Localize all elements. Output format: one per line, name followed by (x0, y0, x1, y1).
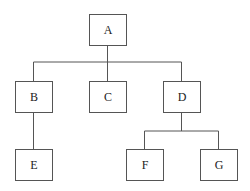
node-a-label: A (104, 23, 113, 37)
node-e-label: E (30, 158, 37, 172)
node-f-label: F (142, 158, 149, 172)
tree-diagram: A B C D E F G (0, 0, 250, 191)
node-d-label: D (178, 90, 187, 104)
node-b: B (16, 82, 53, 113)
node-c-label: C (104, 90, 112, 104)
node-d: D (164, 82, 201, 113)
node-a: A (90, 15, 127, 46)
node-c: C (90, 82, 127, 113)
edge-d-children (145, 112, 219, 149)
node-e: E (16, 150, 53, 181)
node-g: G (201, 150, 238, 181)
node-g-label: G (215, 158, 224, 172)
edge-a-children (34, 45, 182, 81)
nodes: A B C D E F G (16, 15, 238, 181)
node-b-label: B (30, 90, 38, 104)
node-f: F (127, 150, 164, 181)
